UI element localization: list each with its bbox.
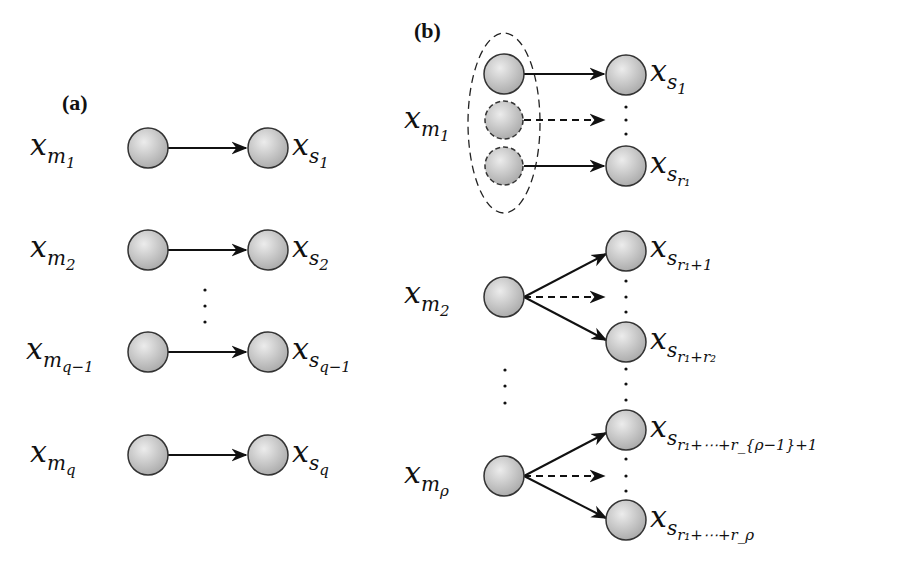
b-slave-label-rho-first: xsr₁+⋯+r_{ρ−1}+1 — [650, 412, 817, 453]
b-slave-label-sr1plusr2: xsr₁+r₂ — [650, 324, 716, 365]
ellipsis-dots — [203, 288, 206, 323]
slave-label-q-minus-1: xsq−1 — [292, 334, 351, 375]
slave-label-1: xs1 — [292, 130, 329, 171]
diagram-canvas: (a) (b) xm1 xs1 xm2 xs2 xmq−1 xsq−1 xmq … — [0, 0, 900, 569]
row-q-minus-1 — [128, 332, 288, 372]
master-label-1: xm1 — [30, 130, 75, 171]
master-label-q-minus-1: xmq−1 — [26, 334, 94, 375]
b-slave-label-sr1: xsr₁ — [650, 148, 690, 189]
b-slave-label-rho-last: xsr₁+⋯+r_ρ — [650, 502, 754, 543]
panel-a-label: (a) — [62, 90, 88, 116]
b-slave-label-sr1plus1: xsr₁+1 — [650, 232, 712, 273]
slave-label-2: xs2 — [292, 232, 329, 273]
b-slave-label-s1: xs1 — [650, 56, 687, 97]
master-label-2: xm2 — [30, 232, 75, 273]
slave-label-q: xsq — [292, 437, 329, 478]
panel-a-graph — [128, 128, 288, 475]
b-master-label-1: xm1 — [404, 103, 449, 144]
panel-b-graph — [468, 33, 646, 540]
panel-b-label: (b) — [414, 18, 441, 44]
graph-edges-nodes — [0, 0, 900, 569]
b-master-label-rho: xmρ — [404, 458, 449, 499]
b-master-label-2: xm2 — [404, 278, 449, 319]
row-2 — [128, 230, 288, 270]
row-q — [128, 435, 288, 475]
master-label-q: xmq — [30, 437, 76, 478]
row-1 — [128, 128, 288, 168]
